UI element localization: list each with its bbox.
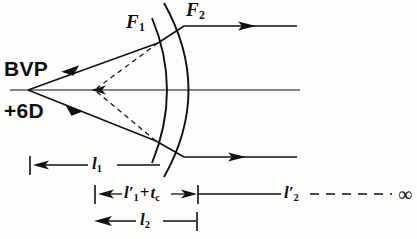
lower-incident-ray-arrow [62,105,83,119]
focal-point-2-base: F [186,0,199,20]
dim-label-l2: l2 [140,211,150,230]
focal-point-1-base: F [126,11,139,32]
lower-virtual-ray-dashed [97,92,156,141]
focal-point-2-label: F2 [186,0,205,22]
focal-point-1-subscript: 1 [139,21,145,34]
dim-label-l2-subscript: 2 [145,219,150,230]
infinity-label: ∞ [398,184,412,204]
dim-label-plus-sign: + [140,183,150,202]
dim-label-l1p-subscript: 1 [134,192,139,203]
dim-label-l2-prime: l′2 [284,184,299,203]
dim-label-l2p-subscript: 2 [294,192,299,203]
lower-incident-ray [28,90,156,141]
dim-label-l1: l1 [92,155,102,174]
dim-label-l1-prime-plus-tc: l′1+tc [124,184,160,203]
focal-point-2-subscript: 2 [199,9,205,22]
dim-label-l1-subscript: 1 [97,163,102,174]
optics-ray-diagram: BVP +6D F1 F2 l1 l′1+tc l′2 ∞ l2 [0,0,417,239]
upper-virtual-ray-dashed [97,43,158,88]
source-bvp-label: BVP [4,58,48,79]
diagram-canvas [0,0,417,239]
focal-point-1-label: F1 [126,12,145,34]
source-power-label: +6D [4,100,44,121]
dim-label-tc-subscript: c [155,192,160,203]
